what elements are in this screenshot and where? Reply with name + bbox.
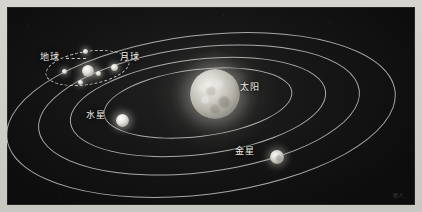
sun-body	[190, 69, 240, 119]
moon-phase-marker	[83, 49, 88, 54]
figure-page: 太阳 水星 金星 地球 月球 图片	[0, 0, 422, 212]
leader-line-earth	[66, 58, 86, 59]
moon-body	[111, 64, 118, 71]
label-venus: 金星	[235, 147, 254, 156]
watermark: 图片	[393, 191, 405, 198]
mercury-body	[116, 114, 129, 127]
earth-body	[82, 65, 94, 77]
moon-phase-marker	[78, 80, 83, 85]
label-earth: 地球	[40, 53, 59, 62]
venus-surface-texture	[270, 150, 284, 164]
label-moon: 月球	[120, 53, 139, 62]
label-mercury: 水星	[86, 111, 105, 120]
sky-plate: 太阳 水星 金星 地球 月球 图片	[7, 7, 415, 205]
venus-body	[270, 150, 284, 164]
label-sun: 太阳	[240, 83, 259, 92]
sun-surface-texture	[190, 69, 240, 119]
moon-phase-marker	[62, 69, 67, 74]
moon-phase-marker	[96, 71, 101, 76]
